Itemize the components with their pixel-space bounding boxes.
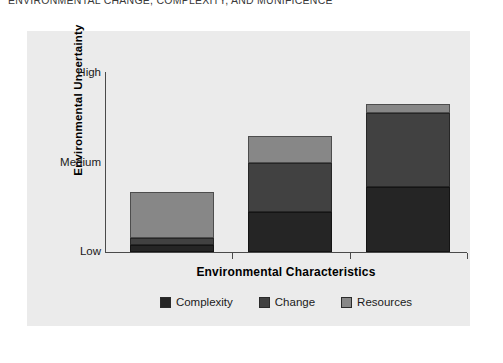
x-tick-1	[232, 253, 233, 259]
legend-label-resources: Resources	[357, 296, 412, 308]
y-tick-medium-label: Medium	[31, 156, 101, 169]
x-tick-3	[467, 253, 468, 259]
bar-segment-complexity	[248, 212, 332, 252]
bar-segment-complexity	[130, 245, 214, 252]
bar-segment-change	[248, 163, 332, 212]
chart-legend: Complexity Change Resources	[105, 296, 467, 308]
chart-panel: Environmental Uncertainty High Medium Lo…	[27, 31, 470, 326]
plot-area	[105, 71, 467, 252]
y-tick-high-label: High	[31, 66, 101, 79]
bar-segment-change	[130, 238, 214, 245]
figure-title: ENVIRONMENTAL CHANGE, COMPLEXITY, AND MU…	[8, 0, 488, 6]
y-tick-low-label: Low	[31, 245, 101, 258]
bar-group-1	[130, 71, 214, 252]
bar-group-3	[366, 71, 450, 252]
bar-segment-resources	[130, 192, 214, 237]
bar-group-2	[248, 71, 332, 252]
x-tick-2	[350, 253, 351, 259]
legend-swatch-resources	[341, 297, 352, 308]
legend-item-resources: Resources	[341, 296, 412, 308]
legend-item-change: Change	[259, 296, 315, 308]
x-axis-line	[105, 252, 467, 253]
legend-label-complexity: Complexity	[176, 296, 233, 308]
legend-label-change: Change	[275, 296, 315, 308]
bar-segment-resources	[366, 104, 450, 113]
bar-segment-resources	[248, 136, 332, 163]
legend-swatch-complexity	[160, 297, 171, 308]
legend-item-complexity: Complexity	[160, 296, 233, 308]
bar-segment-complexity	[366, 187, 450, 252]
bar-segment-change	[366, 113, 450, 187]
x-axis-title: Environmental Characteristics	[105, 265, 467, 279]
legend-swatch-change	[259, 297, 270, 308]
